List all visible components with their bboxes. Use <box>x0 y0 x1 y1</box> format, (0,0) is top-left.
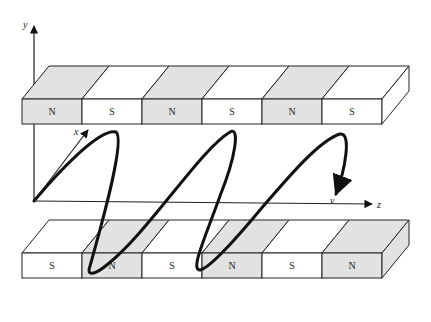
top-magnet-row: NSNSNS <box>22 66 409 124</box>
pole-label: N <box>348 260 355 271</box>
pole-label: S <box>289 260 295 271</box>
pole-label: N <box>288 106 295 117</box>
pole-label: N <box>228 260 235 271</box>
pole-label: N <box>168 106 175 117</box>
velocity-label: v <box>330 195 335 206</box>
bottom-magnet-row: SNSNSN <box>22 220 409 278</box>
z-axis-label: z <box>376 199 381 210</box>
pole-label: S <box>109 106 115 117</box>
pole-label: N <box>48 106 55 117</box>
y-axis-label: y <box>22 19 28 30</box>
x-axis-label: x <box>73 126 79 137</box>
z-axis <box>34 201 372 204</box>
pole-label: S <box>349 106 355 117</box>
pole-label: S <box>169 260 175 271</box>
undulator-diagram: y NSNSNS SNSNSN z x v <box>0 0 431 322</box>
pole-label: S <box>49 260 55 271</box>
pole-label: S <box>229 106 235 117</box>
